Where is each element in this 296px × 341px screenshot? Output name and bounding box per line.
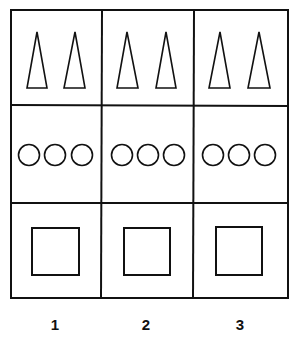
circle-icon [19,145,40,166]
circle-icon [72,145,93,166]
grid-border [11,10,288,298]
shape-grid-diagram [0,0,296,341]
circle-icon [164,145,185,166]
triangle-icon [209,32,230,88]
grid-divider-vertical [101,10,102,298]
triangle-icon [117,32,138,88]
square-icon [32,228,79,275]
triangle-cell-1 [27,32,85,88]
circle-icon [45,145,66,166]
triangle-cell-2 [117,32,176,88]
column-label-2: 2 [136,316,156,333]
circle-icon [203,145,224,166]
grid-divider-vertical [193,10,194,298]
triangle-icon [27,32,47,88]
circle-cell-3 [203,145,276,166]
column-label-1: 1 [45,316,65,333]
grid-divider-horizontal [11,105,288,106]
triangle-icon [64,32,85,88]
circle-icon [229,145,250,166]
triangle-cell-3 [209,32,270,88]
triangle-icon [156,32,176,88]
square-icon [216,227,262,275]
square-icon [124,228,170,275]
circle-cell-1 [19,145,93,166]
circle-icon [255,145,276,166]
circle-icon [112,145,133,166]
triangle-icon [248,32,270,88]
column-label-3: 3 [230,316,250,333]
circle-icon [138,145,159,166]
circle-cell-2 [112,145,185,166]
